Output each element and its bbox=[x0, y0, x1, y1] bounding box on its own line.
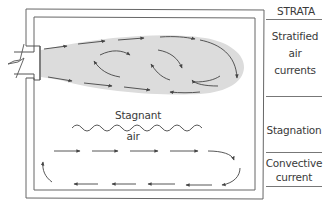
convective-arrows bbox=[43, 151, 240, 185]
stratum-convective-label-line1: Convective bbox=[264, 156, 324, 170]
strata-header: STRATA bbox=[270, 4, 322, 18]
stagnant-air-label-line2: air bbox=[118, 130, 148, 142]
stratum-stratified-label-line1: Stratified bbox=[266, 29, 324, 43]
stratum-stratified-label-line2: air bbox=[266, 46, 324, 60]
supply-diffuser bbox=[8, 44, 40, 80]
stagnant-air-label-line1: Stagnant bbox=[108, 108, 168, 122]
stratum-stagnation-label: Stagnation bbox=[264, 123, 324, 137]
stratum-stratified-label-line3: currents bbox=[266, 63, 324, 77]
divider-stagnation bbox=[266, 152, 322, 153]
stratum-convective-label-line2: current bbox=[264, 170, 324, 184]
divider-header bbox=[266, 19, 322, 20]
divider-convective bbox=[266, 186, 322, 187]
divider-stratified bbox=[266, 96, 322, 97]
